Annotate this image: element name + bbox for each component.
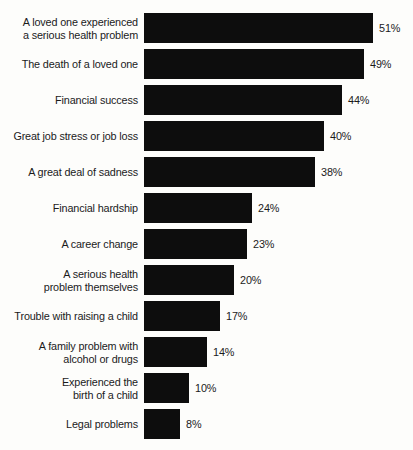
bar-track — [144, 49, 364, 79]
bar-row: Legal problems8% — [0, 409, 413, 439]
bar-track — [144, 265, 234, 295]
category-label: A serious health problem themselves — [8, 268, 138, 293]
bar-row: Financial success44% — [0, 85, 413, 115]
bar-track — [144, 193, 252, 223]
bar-track — [144, 301, 220, 331]
bar — [144, 49, 364, 79]
bar-track — [144, 373, 189, 403]
bar — [144, 301, 220, 331]
bar — [144, 337, 207, 367]
category-label: The death of a loved one — [8, 58, 138, 71]
value-label: 38% — [321, 166, 342, 178]
value-label: 24% — [258, 202, 279, 214]
bar — [144, 157, 315, 187]
bar-row: A loved one experienced a serious health… — [0, 13, 413, 43]
bar — [144, 121, 324, 151]
bar-row: Experienced the birth of a child10% — [0, 373, 413, 403]
category-label: Experienced the birth of a child — [8, 376, 138, 401]
bar-row: Financial hardship24% — [0, 193, 413, 223]
value-label: 40% — [330, 130, 351, 142]
bar-track — [144, 121, 324, 151]
bar-track — [144, 85, 342, 115]
bar — [144, 193, 252, 223]
category-label: Great job stress or job loss — [8, 130, 138, 143]
value-label: 44% — [348, 94, 369, 106]
category-label: Financial hardship — [8, 202, 138, 215]
bar — [144, 265, 234, 295]
value-label: 8% — [186, 418, 201, 430]
bar-row: A serious health problem themselves20% — [0, 265, 413, 295]
value-label: 14% — [213, 346, 234, 358]
bar-track — [144, 229, 247, 259]
bar-row: A career change23% — [0, 229, 413, 259]
category-label: A great deal of sadness — [8, 166, 138, 179]
value-label: 17% — [226, 310, 247, 322]
bar-row: Trouble with raising a child17% — [0, 301, 413, 331]
value-label: 10% — [195, 382, 216, 394]
category-label: A loved one experienced a serious health… — [8, 16, 138, 41]
bar-row: The death of a loved one49% — [0, 49, 413, 79]
value-label: 49% — [370, 58, 391, 70]
bar — [144, 229, 247, 259]
bar — [144, 373, 189, 403]
category-label: Trouble with raising a child — [8, 310, 138, 323]
value-label: 23% — [253, 238, 274, 250]
bar — [144, 85, 342, 115]
bar-track — [144, 13, 373, 43]
value-label: 20% — [240, 274, 261, 286]
bar — [144, 409, 180, 439]
bar-track — [144, 409, 180, 439]
category-label: A career change — [8, 238, 138, 251]
value-label: 51% — [379, 22, 400, 34]
bar-chart: A loved one experienced a serious health… — [0, 0, 413, 450]
bar-track — [144, 337, 207, 367]
bar — [144, 13, 373, 43]
bar-track — [144, 157, 315, 187]
category-label: A family problem with alcohol or drugs — [8, 340, 138, 365]
bar-row: A great deal of sadness38% — [0, 157, 413, 187]
bar-row: A family problem with alcohol or drugs14… — [0, 337, 413, 367]
bar-row: Great job stress or job loss40% — [0, 121, 413, 151]
category-label: Legal problems — [8, 418, 138, 431]
category-label: Financial success — [8, 94, 138, 107]
